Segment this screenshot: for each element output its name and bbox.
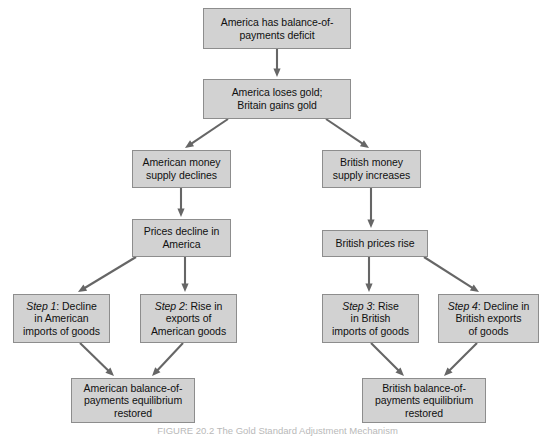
arrow-head	[395, 367, 404, 376]
arrow-head	[185, 140, 194, 148]
arrow-head	[78, 285, 87, 292]
arrow-shaft	[326, 119, 363, 144]
node-label: Step 3: Risein Britishimports of goods	[326, 300, 415, 338]
british-equilibrium-box: British balance-of-payments equilibriumr…	[362, 378, 486, 423]
node-label: Step 2: Rise inexports ofAmerican goods	[144, 300, 233, 338]
arrow-uk-prices-to-step4	[424, 257, 479, 292]
step-2-box: Step 2: Rise inexports ofAmerican goods	[140, 294, 237, 343]
step-3-box: Step 3: Risein Britishimports of goods	[322, 294, 419, 343]
flowchart-canvas: America has balance-of-payments deficitA…	[0, 0, 555, 439]
step-label: Step 4	[448, 300, 478, 312]
arrow-head	[470, 284, 479, 292]
british-prices-rise-box: British prices rise	[322, 230, 428, 257]
arrow-us-money-to-us-prices	[177, 188, 184, 217]
arrow-shaft	[191, 119, 228, 144]
node-label: America loses gold;Britain gains gold	[207, 86, 347, 111]
node-label: Step 1: Declinein Americanimports of goo…	[17, 300, 106, 338]
arrow-head	[367, 220, 374, 229]
node-label: America has balance-of-payments deficit	[207, 16, 347, 41]
node-label: American moneysupply declines	[136, 156, 227, 181]
arrow-shaft	[371, 343, 399, 371]
arrow-shaft	[424, 257, 473, 288]
arrow-shaft	[449, 343, 477, 371]
arrow-step3-to-uk-equil	[371, 343, 404, 376]
american-money-supply-box: American moneysupply declines	[132, 150, 231, 188]
step-label: Step 2	[155, 300, 185, 312]
step-label: Step 3	[342, 300, 372, 312]
america-deficit-box: America has balance-of-payments deficit	[203, 8, 351, 49]
arrow-uk-prices-to-step3	[365, 257, 372, 292]
node-label: British prices rise	[326, 237, 424, 250]
step-4-box: Step 4: Decline inBritish exportsof good…	[438, 294, 539, 343]
figure-caption: FIGURE 20.2 The Gold Standard Adjustment…	[0, 425, 555, 436]
arrow-head	[181, 284, 188, 293]
node-label: British balance-of-payments equilibriumr…	[366, 382, 482, 420]
arrow-head	[152, 367, 160, 376]
arrow-gold-to-uk-money	[326, 119, 369, 148]
british-money-supply-box: British moneysupply increases	[322, 150, 421, 188]
arrow-us-prices-to-step2	[181, 257, 188, 292]
arrow-step4-to-uk-equil	[444, 343, 477, 376]
arrow-uk-money-to-uk-prices	[367, 188, 374, 228]
arrow-head	[177, 209, 184, 218]
arrow-head	[365, 284, 372, 293]
arrow-deficit-to-gold	[273, 49, 280, 77]
american-prices-decline-box: Prices decline inAmerica	[132, 219, 231, 257]
arrow-shaft	[157, 343, 183, 371]
arrow-us-prices-to-step1	[78, 257, 136, 292]
arrow-head	[105, 367, 114, 376]
arrow-step1-to-us-equil	[80, 343, 114, 376]
arrow-head	[273, 69, 280, 78]
arrow-step2-to-us-equil	[152, 343, 183, 376]
node-label: British moneysupply increases	[326, 156, 417, 181]
arrow-head	[360, 140, 369, 148]
node-label: American balance-of-payments equilibrium…	[75, 382, 191, 420]
node-label: Step 4: Decline inBritish exportsof good…	[442, 300, 535, 338]
step-1-box: Step 1: Declinein Americanimports of goo…	[13, 294, 110, 343]
arrow-head	[444, 367, 453, 376]
arrow-shaft	[80, 343, 109, 371]
step-label: Step 1	[26, 300, 56, 312]
node-label: Prices decline inAmerica	[136, 225, 227, 250]
arrow-gold-to-us-money	[185, 119, 228, 148]
arrow-layer	[0, 0, 555, 439]
gold-flow-box: America loses gold;Britain gains gold	[203, 79, 351, 119]
american-equilibrium-box: American balance-of-payments equilibrium…	[71, 378, 195, 423]
arrow-shaft	[84, 257, 136, 288]
